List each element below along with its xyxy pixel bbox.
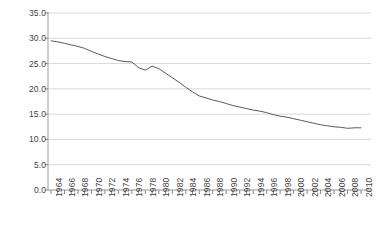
y-tick-label-5.0: 5.0 xyxy=(12,161,46,170)
gridlines xyxy=(48,13,371,165)
data-line-series-1 xyxy=(51,41,361,128)
chart-plot-area xyxy=(0,0,387,236)
x-axis-ticks xyxy=(51,190,361,194)
y-tick-label-15.0: 15.0 xyxy=(12,110,46,119)
line-chart: 0.05.010.015.020.025.030.035.0 196419661… xyxy=(0,0,387,236)
y-tick-label-30.0: 30.0 xyxy=(12,34,46,43)
y-tick-label-20.0: 20.0 xyxy=(12,85,46,94)
y-tick-label-25.0: 25.0 xyxy=(12,60,46,69)
y-tick-label-10.0: 10.0 xyxy=(12,135,46,144)
y-tick-label-0.0: 0.0 xyxy=(12,186,46,195)
y-tick-label-35.0: 35.0 xyxy=(12,9,46,18)
